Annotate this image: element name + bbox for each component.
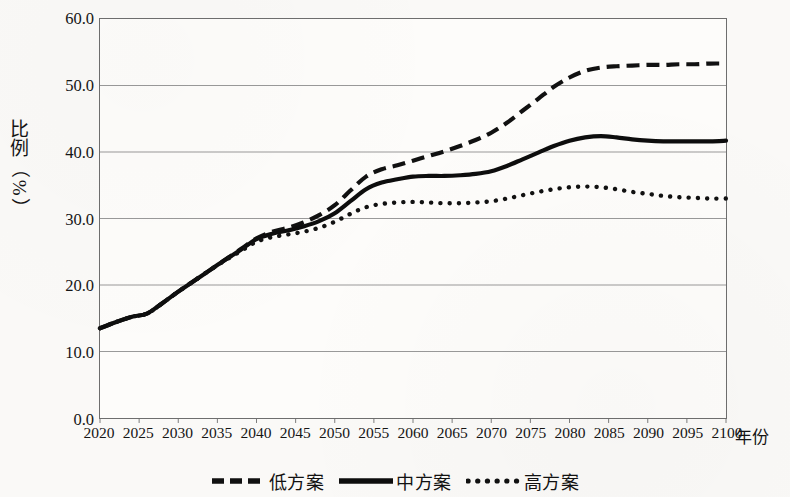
legend-label-high: 高方案 — [524, 468, 580, 494]
plot-area — [99, 18, 727, 419]
y-tick-label: 60.0 — [50, 9, 94, 29]
x-axis-title: 年份 — [735, 423, 769, 448]
series-line-high — [100, 187, 726, 329]
dotted-line-swatch — [466, 474, 522, 488]
legend-label-mid: 中方案 — [396, 468, 452, 494]
line-chart: 比 例 （ % ） 0.010.020.030.040.050.060.0 20… — [0, 0, 790, 497]
y-axis-title-char-0: 比 — [2, 120, 36, 139]
y-axis-title: 比 例 （ % ） — [2, 120, 36, 217]
y-tick-label: 20.0 — [50, 276, 94, 296]
y-axis-tick-labels: 0.010.020.030.040.050.060.0 — [44, 0, 94, 497]
legend-item-mid: 中方案 — [338, 468, 452, 494]
plot-svg — [100, 19, 726, 418]
x-axis-tick-labels: 2020202520302035204020452050205520602065… — [99, 424, 727, 450]
chart-legend: 低方案 中方案 高方案 — [0, 466, 790, 496]
legend-item-low: 低方案 — [211, 468, 325, 494]
solid-line-swatch — [338, 474, 394, 488]
legend-label-low: 低方案 — [269, 468, 325, 494]
series-lines — [100, 64, 726, 329]
gridlines — [100, 86, 726, 423]
series-line-low — [100, 64, 726, 329]
legend-item-high: 高方案 — [466, 468, 580, 494]
y-tick-label: 40.0 — [50, 143, 94, 163]
y-tick-label: 10.0 — [50, 343, 94, 363]
series-line-mid — [100, 136, 726, 328]
y-tick-label: 50.0 — [50, 76, 94, 96]
y-tick-label: 30.0 — [50, 210, 94, 230]
dashed-line-swatch — [211, 474, 267, 488]
y-axis-title-char-4: ） — [9, 190, 28, 224]
